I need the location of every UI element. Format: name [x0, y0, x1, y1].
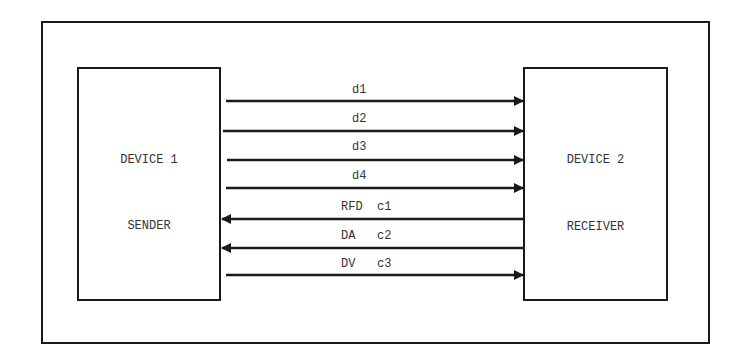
signal-label-dv-c3: DV c3: [341, 257, 391, 271]
signal-lines: [0, 0, 752, 363]
signal-label-da-c2: DA c2: [341, 229, 391, 243]
signal-label-d2: d2: [352, 112, 366, 126]
signal-label-d3: d3: [352, 140, 366, 154]
signal-label-rfd-c1: RFD c1: [341, 200, 391, 214]
signal-label-d4: d4: [352, 169, 366, 183]
signal-label-d1: d1: [352, 83, 366, 97]
